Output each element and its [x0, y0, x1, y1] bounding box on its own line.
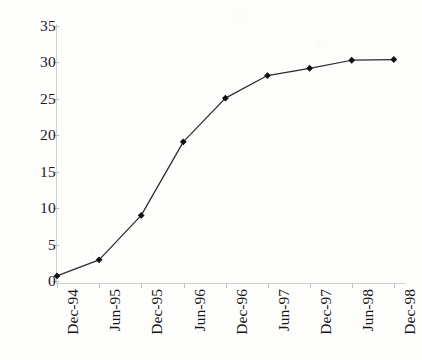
scan-speck: [318, 44, 322, 48]
scan-speck: [90, 250, 93, 253]
data-point: [390, 56, 397, 63]
data-point: [264, 72, 271, 79]
series-line: [57, 60, 394, 276]
series-markers: [54, 56, 398, 279]
plot-area: 35 30 25 20 15 10 5 0 Dec-94 Jun-95 Dec-…: [0, 0, 422, 360]
chart-figure: 35 30 25 20 15 10 5 0 Dec-94 Jun-95 Dec-…: [0, 0, 422, 360]
scan-speck: [238, 14, 243, 18]
data-point: [348, 57, 355, 64]
data-point: [54, 273, 61, 280]
data-point: [306, 65, 313, 72]
data-series: [0, 0, 422, 360]
